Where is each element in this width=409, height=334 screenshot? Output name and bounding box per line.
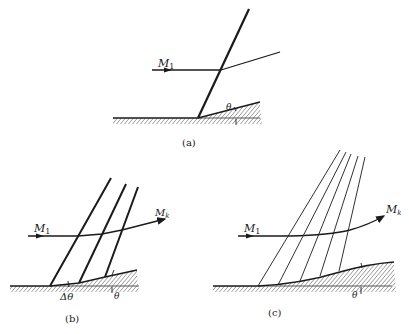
- wave-1-b: [50, 178, 111, 286]
- mach-in-label-b: M1: [33, 222, 50, 236]
- theta-label-a: θ: [226, 102, 232, 112]
- wall-hatch-a: [113, 102, 262, 124]
- mach-out-label-c: Mk: [385, 203, 402, 217]
- wave-3-c: [300, 154, 351, 281]
- deflected-flow-a: [221, 52, 280, 70]
- theta-label-c: θ: [352, 290, 358, 300]
- delta-theta-label-b: Δθ: [59, 291, 73, 302]
- wave-2-c: [278, 152, 346, 285]
- mach-out-label-b: Mk: [154, 207, 170, 220]
- wall-hatch-c: [213, 262, 396, 292]
- panel-c: M1 Mk θ (c): [213, 150, 402, 318]
- panel-b: M1 Mk Δθ θ (b): [10, 178, 170, 324]
- mach-label-a: M1: [157, 57, 174, 71]
- theta-label-b: θ: [114, 291, 120, 301]
- compression-wave-diagram: M1 θ (a) M1 Mk Δθ θ (b): [0, 0, 409, 334]
- mach-in-label-c: M1: [243, 222, 260, 236]
- caption-c: (c): [268, 307, 282, 318]
- theta-tick-top-b: [112, 270, 114, 275]
- wave-1-c: [258, 150, 340, 286]
- caption-a: (a): [182, 137, 196, 148]
- panel-a: M1 θ (a): [113, 9, 280, 148]
- caption-b: (b): [65, 313, 79, 324]
